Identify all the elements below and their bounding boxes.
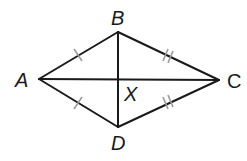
intersection-label-x: X: [123, 83, 138, 105]
vertex-label-d: D: [111, 132, 125, 154]
diagonal-ac: [39, 79, 219, 80]
segment-bc: [118, 32, 219, 80]
vertex-label-c: C: [227, 70, 241, 92]
vertex-label-b: B: [111, 7, 124, 29]
kite-diagram: A B C D X: [0, 0, 247, 161]
vertex-label-a: A: [14, 69, 28, 91]
tick-mark-ad: [74, 97, 82, 109]
